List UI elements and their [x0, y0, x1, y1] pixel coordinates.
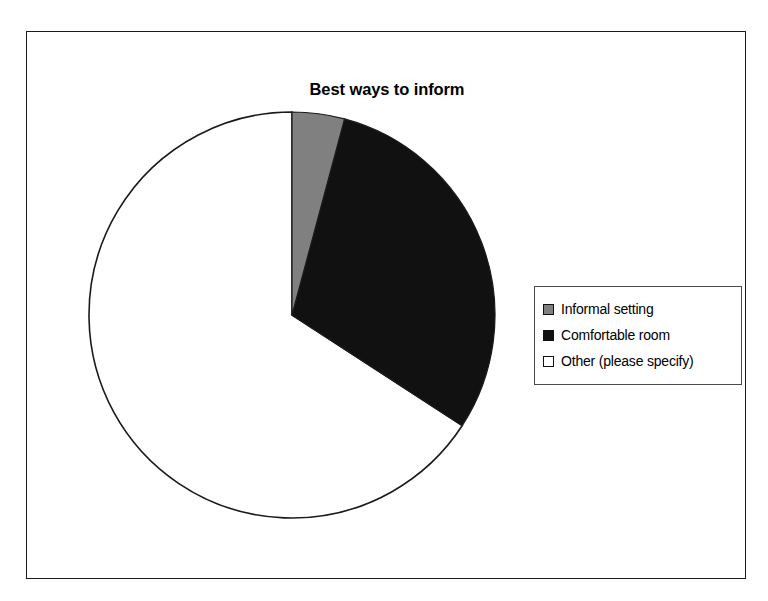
- legend-label-informal-setting: Informal setting: [561, 302, 654, 316]
- chart-plot-frame: Best ways to inform Informal setting Com…: [26, 31, 746, 579]
- square-swatch-black-icon: [543, 330, 554, 341]
- pie-chart-figure: Best ways to inform Informal setting Com…: [0, 0, 768, 601]
- legend-label-comfortable-room: Comfortable room: [561, 328, 670, 342]
- legend-item-informal-setting: Informal setting: [543, 296, 734, 322]
- pie-graphic: [82, 105, 502, 525]
- legend-item-comfortable-room: Comfortable room: [543, 322, 734, 348]
- square-swatch-gray-icon: [543, 304, 554, 315]
- legend-item-other: Other (please specify): [543, 348, 734, 374]
- chart-title: Best ways to inform: [27, 80, 747, 99]
- square-swatch-white-icon: [543, 356, 554, 367]
- chart-legend: Informal setting Comfortable room Other …: [534, 286, 742, 385]
- legend-label-other: Other (please specify): [561, 354, 694, 368]
- pie-slices: [89, 112, 495, 518]
